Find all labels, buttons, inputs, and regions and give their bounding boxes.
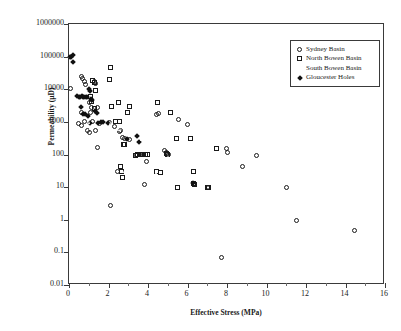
data-point [70,59,76,65]
data-point [118,126,124,131]
data-point [254,153,259,158]
legend-entry-square: North Bowen Basin [295,54,376,63]
x-tick-mark [385,283,386,288]
data-point [127,104,132,109]
legend-entry-diamond: Gloucester Holes [295,73,376,82]
x-tick-label: 0 [53,290,83,298]
x-tick-label: 16 [369,290,399,298]
legend-label: North Bowen Basin [306,54,362,63]
data-point [68,86,73,91]
data-point [294,218,299,223]
chart-legend: Sydney BasinNorth Bowen BasinSouth Bowen… [290,40,380,87]
x-minor-tick-mark [168,283,169,286]
x-tick-mark [227,283,228,288]
data-point [214,146,219,151]
data-point [284,185,289,190]
y-tick-label: 100000 [4,52,64,60]
data-point [88,126,94,131]
legend-marker-square-icon [295,54,304,63]
x-tick-label: 10 [251,290,281,298]
data-point [128,93,134,98]
y-tick-mark [64,57,69,58]
data-point [186,187,192,192]
x-minor-tick-mark [89,283,90,286]
data-point [109,119,115,124]
data-point [108,203,113,208]
legend-label: Gloucester Holes [306,73,354,82]
data-point [94,110,100,116]
y-tick-label: 0.1 [4,247,64,255]
x-tick-mark [267,283,268,288]
legend-label: Sydney Basin [306,45,345,54]
x-minor-tick-mark [326,283,327,286]
data-point [139,136,145,141]
data-point [175,185,180,190]
y-tick-mark [64,220,69,221]
y-tick-label: 0.01 [4,280,64,288]
data-point [122,142,127,147]
y-tick-mark [64,122,69,123]
x-tick-label: 14 [330,290,360,298]
data-point [168,110,173,115]
data-point [89,97,95,103]
x-minor-tick-mark [128,283,129,286]
x-axis-title: Effective Stress (MPa) [68,308,384,317]
data-point [145,129,151,134]
data-point [107,77,112,82]
data-point [120,175,125,180]
x-minor-tick-mark [247,283,248,286]
data-point [154,169,160,174]
data-point [78,104,84,110]
x-tick-mark [346,283,347,288]
x-tick-mark [306,283,307,288]
data-point [142,182,147,187]
y-tick-mark [64,187,69,188]
data-point [188,136,193,141]
y-tick-label: 10 [4,182,64,190]
y-axis-title: Permeability (µD) [47,62,56,172]
data-point [219,255,224,260]
x-tick-label: 2 [93,290,123,298]
legend-marker-triangle-icon [295,64,304,73]
legend-marker-diamond-icon [295,73,304,82]
data-point [117,119,122,124]
data-point [155,100,160,105]
data-point [148,159,154,164]
data-point [104,125,110,130]
data-point [174,136,179,141]
y-tick-mark [64,89,69,90]
x-tick-mark [69,283,70,288]
y-tick-mark [64,155,69,156]
data-point [145,152,150,157]
data-point [206,185,211,190]
data-point [216,180,222,185]
data-point [135,127,141,132]
y-tick-mark [64,24,69,25]
x-tick-label: 12 [290,290,320,298]
y-tick-label: 1 [4,215,64,223]
data-point [225,150,230,155]
legend-entry-triangle: South Bowen Basin [295,64,376,73]
data-point [95,145,100,150]
y-tick-mark [64,252,69,253]
data-point [92,80,97,85]
data-point [176,117,181,122]
x-tick-label: 8 [211,290,241,298]
x-minor-tick-mark [286,283,287,286]
legend-marker-circle-icon [295,45,304,54]
data-point [352,228,357,233]
data-point [109,104,114,109]
data-point [156,111,161,116]
x-tick-label: 6 [172,290,202,298]
data-point [108,65,113,70]
scatter-chart-figure: 0.010.1110100100010000100000100000002468… [0,0,401,331]
x-minor-tick-mark [365,283,366,286]
data-point [185,122,190,127]
x-tick-mark [109,283,110,288]
data-point [93,88,98,93]
marker-square-icon [297,56,302,61]
marker-circle-icon [297,47,302,52]
y-tick-label: 1000000 [4,19,64,27]
x-tick-mark [188,283,189,288]
legend-label: South Bowen Basin [306,64,362,73]
